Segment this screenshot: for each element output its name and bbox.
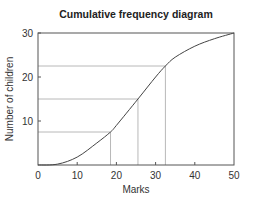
x-tick-label: 30 <box>150 170 162 181</box>
y-tick-label: 10 <box>22 116 34 127</box>
cumulative-frequency-chart: Cumulative frequency diagram 01020304050… <box>0 0 254 207</box>
y-tick-label: 20 <box>22 72 34 83</box>
y-tick-label: 30 <box>22 28 34 39</box>
x-tick-label: 20 <box>111 170 123 181</box>
chart-title: Cumulative frequency diagram <box>59 8 212 20</box>
x-tick-label: 50 <box>228 170 240 181</box>
y-axis-label: Number of children <box>4 57 15 141</box>
x-tick-label: 0 <box>35 170 41 181</box>
x-tick-label: 10 <box>72 170 84 181</box>
x-tick-label: 40 <box>189 170 201 181</box>
reference-lines <box>38 66 165 165</box>
x-axis-label: Marks <box>122 184 149 195</box>
